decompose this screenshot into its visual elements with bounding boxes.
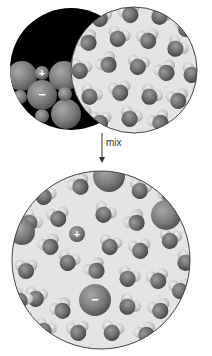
cation-ion [35, 109, 49, 123]
arrow-down-icon [99, 157, 105, 163]
minus-sign-icon: − [38, 87, 46, 102]
dissolution-diagram: +− +− [0, 0, 212, 356]
solution-panel: +− [6, 160, 201, 349]
minus-sign-icon: − [91, 292, 99, 307]
cation-ion [58, 87, 72, 101]
plus-sign-icon: + [39, 67, 45, 79]
anion-ion: − [79, 284, 111, 316]
mix-arrow [99, 133, 105, 163]
mix-label: mix [106, 137, 122, 148]
cation-ion: + [35, 66, 49, 80]
plus-sign-icon: + [74, 228, 80, 240]
anion-ion [51, 99, 81, 129]
anion-ion: − [27, 80, 57, 110]
cation-ion: + [69, 226, 85, 242]
anion-ion [9, 219, 35, 245]
cation-ion [13, 90, 27, 104]
anion-ion [151, 200, 181, 230]
anion-ion [93, 160, 125, 192]
